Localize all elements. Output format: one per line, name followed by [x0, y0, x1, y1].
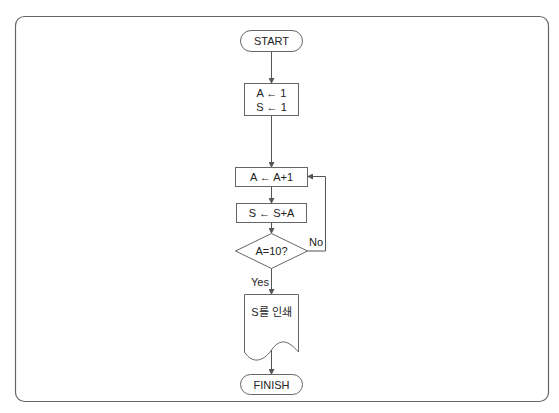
decision-label: A=10? — [255, 245, 287, 257]
init-line-2: S ← 1 — [256, 101, 287, 113]
flowchart-canvas: START A ← 1 S ← 1 A ← A+1 S ← S+A A=10? … — [0, 0, 559, 413]
accumulate-process-box: S ← S+A — [237, 204, 307, 223]
output-label: S를 인쇄 — [251, 306, 291, 318]
start-label: START — [254, 35, 289, 47]
finish-terminal: FINISH — [241, 375, 303, 395]
no-label: No — [309, 236, 323, 248]
yes-label: Yes — [251, 276, 269, 288]
decision-diamond: A=10? — [236, 234, 308, 269]
finish-label: FINISH — [253, 379, 289, 391]
init-process-box: A ← 1 S ← 1 — [245, 84, 299, 116]
init-line-1: A ← 1 — [257, 87, 287, 99]
start-terminal: START — [241, 31, 303, 52]
increment-label: A ← A+1 — [250, 171, 293, 183]
increment-process-box: A ← A+1 — [236, 168, 308, 187]
accumulate-label: S ← S+A — [249, 207, 295, 219]
